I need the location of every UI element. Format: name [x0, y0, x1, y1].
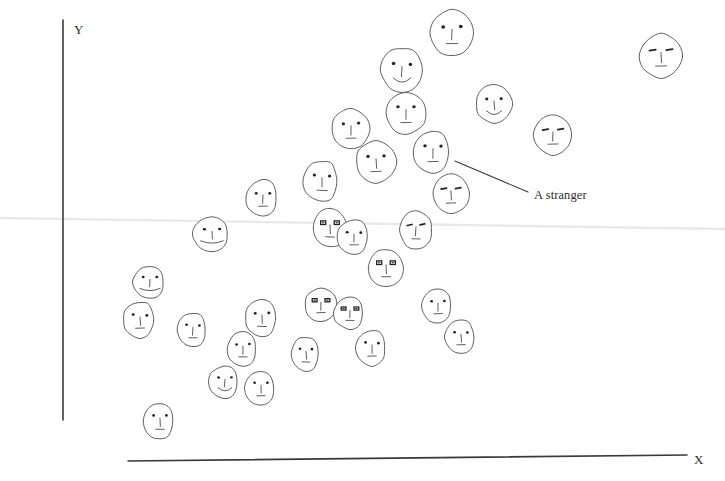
face-marker [334, 297, 363, 330]
face-outline [209, 366, 237, 399]
eye-dot-right [377, 342, 380, 345]
face-marker [533, 115, 571, 156]
eye-dot-right [359, 231, 362, 234]
face-marker [368, 250, 403, 287]
eye-dot-left [423, 144, 426, 147]
face-outline [357, 141, 397, 184]
face-marker [132, 267, 162, 299]
face-marker [209, 366, 237, 399]
face-outline [227, 332, 255, 367]
face-marker [400, 211, 432, 249]
eye-dot-right [267, 312, 270, 315]
eye-dot-right [412, 105, 415, 108]
nose-line [192, 327, 193, 335]
eye-dot-right [218, 228, 221, 231]
face-outline [422, 289, 451, 323]
eye-slit-right [666, 49, 672, 50]
face-marker [246, 179, 276, 216]
nose-line [461, 334, 462, 342]
eye-dot-right [466, 331, 469, 334]
eye-dot-left [366, 155, 369, 158]
x-axis-label: X [694, 452, 704, 468]
eye-dot-left [217, 376, 220, 378]
face-marker [246, 299, 276, 336]
face-marker-a-stranger [413, 131, 448, 173]
eye-dot-left [132, 313, 135, 316]
face-marker [355, 331, 384, 367]
data-points [124, 9, 683, 438]
eye-dot-left [152, 414, 155, 417]
face-marker [386, 93, 426, 135]
face-outline [143, 404, 172, 439]
face-outline [246, 299, 276, 336]
face-outline [355, 331, 384, 367]
eye-slit-right [420, 224, 425, 225]
x-axis-line [128, 455, 687, 461]
eye-dot-left [142, 276, 145, 278]
plot-canvas [0, 0, 725, 481]
annotation-text-a-stranger: A stranger [534, 188, 587, 203]
y-axis-label: Y [74, 22, 84, 38]
face-outline [246, 179, 276, 216]
face-marker [380, 49, 422, 93]
eye-dot-right [198, 324, 201, 327]
eye-dot-right [357, 121, 360, 124]
eye-dot-right [439, 145, 442, 148]
eye-dot-left [203, 228, 206, 231]
face-marker [337, 220, 367, 254]
face-outline [124, 302, 154, 338]
eye-dot-right [268, 192, 271, 195]
eye-slit-left [649, 50, 655, 51]
eye-slit-left [441, 188, 446, 189]
face-marker [143, 404, 172, 439]
eye-dot-right [266, 381, 269, 384]
eye-dot-left [253, 382, 256, 385]
eye-slit-right [456, 188, 461, 189]
eye-dot-right [230, 376, 233, 378]
eye-dot-left [313, 173, 316, 176]
face-outline [337, 220, 367, 254]
eye-dot-left [364, 341, 367, 344]
eye-slit-left [543, 129, 549, 130]
eye-dot-right [409, 63, 413, 66]
face-outline [291, 338, 318, 372]
face-outline [303, 161, 337, 201]
eye-slit-left [407, 224, 412, 225]
face-outline [192, 217, 227, 252]
face-marker [357, 141, 397, 184]
face-outline [334, 297, 363, 330]
face-marker [332, 108, 370, 148]
face-outline [444, 320, 473, 353]
nose-line [224, 379, 225, 386]
eye-dot-left [342, 122, 345, 125]
face-marker [244, 372, 273, 405]
face-marker [291, 338, 318, 372]
face-outline [132, 267, 162, 299]
nose-line [494, 101, 495, 110]
face-outline [244, 372, 273, 405]
nose-line [140, 317, 141, 325]
face-marker [303, 161, 337, 201]
face-marker [192, 217, 227, 252]
eye-dot-right [382, 154, 385, 157]
eye-dot-left [453, 331, 456, 334]
nose-line [415, 227, 416, 236]
face-marker [177, 314, 205, 347]
eye-slit-right [558, 129, 564, 130]
eye-dot-right [165, 414, 168, 417]
face-outline [413, 131, 448, 173]
eye-dot-right [500, 97, 503, 100]
eye-dot-right [248, 343, 251, 346]
axes [63, 20, 687, 461]
eye-dot-left [255, 192, 258, 195]
eye-dot-left [441, 25, 445, 28]
face-marker [477, 85, 513, 124]
face-marker [444, 320, 473, 353]
face-marker [227, 332, 255, 367]
eye-dot-left [254, 312, 257, 315]
nose-line [376, 159, 377, 169]
eye-dot-right [311, 348, 314, 351]
face-outline [177, 314, 205, 347]
eye-dot-right [443, 300, 446, 303]
eye-dot-right [145, 314, 148, 317]
